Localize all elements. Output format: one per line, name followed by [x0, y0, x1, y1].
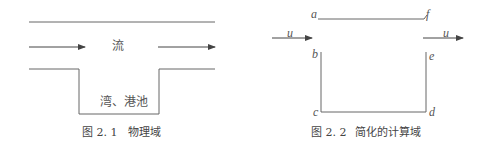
velocity-in-label: u: [287, 27, 293, 39]
figure2-caption-text: 简化的计算域: [355, 127, 421, 139]
flow-label: 流: [112, 40, 124, 52]
figure1-caption-text: 物理域: [128, 127, 161, 139]
point-e: e: [429, 50, 434, 62]
basin-label: 湾、港池: [100, 96, 148, 108]
point-c: c: [313, 106, 318, 118]
figure1-caption-number: 图 2. 1: [82, 127, 118, 139]
point-d: d: [429, 106, 435, 118]
figure-page: 流 湾、港池 图 2. 1 物理域 a f u u b e c d 图 2. 2…: [0, 0, 488, 148]
figure2-caption-number: 图 2. 2: [311, 127, 347, 139]
point-f: f: [426, 8, 429, 20]
point-b: b: [312, 48, 318, 60]
point-a: a: [311, 8, 317, 20]
velocity-out-label: u: [443, 27, 449, 39]
